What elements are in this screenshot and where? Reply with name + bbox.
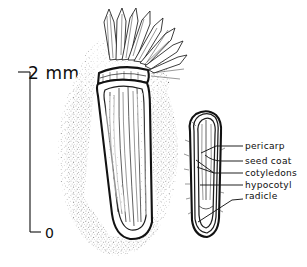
label-text-radicle: radicle <box>245 191 278 201</box>
figure-canvas: 2 mm 0 <box>0 0 307 267</box>
label-text-hypocotyl: hypocotyl <box>245 180 292 190</box>
botanical-illustration: 2 mm 0 <box>0 0 307 267</box>
label-text-pericarp: pericarp <box>245 141 285 151</box>
label-text-cotyledons: cotyledons <box>245 168 297 178</box>
label-text-seed-coat: seed coat <box>245 156 292 166</box>
scale-bar-bottom-label: 0 <box>45 225 54 241</box>
